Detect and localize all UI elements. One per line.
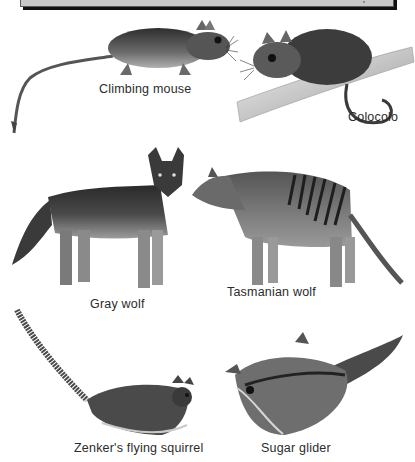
climbing-mouse-label: Climbing mouse <box>99 82 191 96</box>
tasmanian-wolf-label: Tasmanian wolf <box>227 285 316 299</box>
header-mark <box>363 1 365 3</box>
sugar-glider-illustration <box>225 330 415 440</box>
tasmanian-wolf-illustration <box>190 165 415 290</box>
sugar-glider-label: Sugar glider <box>261 441 331 455</box>
gray-wolf-illustration <box>10 145 195 295</box>
header-banner <box>20 0 394 7</box>
zenkers-flying-squirrel-illustration <box>12 305 202 440</box>
climbing-mouse-illustration <box>8 18 238 138</box>
colocolo-label: Colocolo <box>348 110 398 124</box>
zenkers-flying-squirrel-label: Zenker's flying squirrel <box>74 441 203 455</box>
